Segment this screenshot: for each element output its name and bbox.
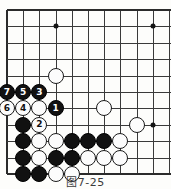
- grid-line-horizontal: [7, 26, 171, 27]
- stone-white[interactable]: [96, 150, 112, 166]
- stone-move-number: 3: [36, 87, 42, 96]
- stone-black[interactable]: [15, 150, 31, 166]
- figure-caption: 图7-25: [0, 172, 171, 189]
- stone-black[interactable]: [48, 150, 64, 166]
- stone-move-number: 4: [20, 103, 26, 112]
- numbered-stone-white-2[interactable]: 2: [31, 117, 47, 133]
- grid-line-horizontal: [7, 59, 171, 60]
- stone-move-number: 5: [20, 87, 26, 96]
- stone-white[interactable]: [48, 133, 64, 149]
- stone-move-number: 1: [52, 103, 58, 112]
- numbered-stone-white-4[interactable]: 4: [15, 100, 31, 116]
- stone-move-number: 2: [36, 120, 42, 129]
- stone-white[interactable]: [112, 133, 128, 149]
- star-point: [150, 122, 155, 127]
- grid-line-horizontal: [7, 9, 171, 11]
- numbered-stone-black-5[interactable]: 5: [15, 84, 31, 100]
- go-board[interactable]: 7536412: [0, 0, 171, 172]
- stone-black[interactable]: [15, 133, 31, 149]
- stone-move-number: 6: [4, 103, 10, 112]
- stone-white[interactable]: [31, 100, 47, 116]
- grid-line-horizontal: [7, 43, 171, 44]
- stone-white[interactable]: [96, 100, 112, 116]
- numbered-stone-white-6[interactable]: 6: [0, 100, 15, 116]
- numbered-stone-black-7[interactable]: 7: [0, 84, 15, 100]
- stone-white[interactable]: [48, 68, 64, 84]
- stone-white[interactable]: [31, 150, 47, 166]
- stone-black[interactable]: [15, 117, 31, 133]
- stone-white[interactable]: [80, 150, 96, 166]
- stone-white[interactable]: [31, 133, 47, 149]
- stone-white[interactable]: [129, 117, 145, 133]
- grid-line-horizontal: [7, 76, 171, 77]
- numbered-stone-black-3[interactable]: 3: [31, 84, 47, 100]
- go-diagram-figure: 7536412 图7-25: [0, 0, 171, 189]
- stone-black[interactable]: [80, 133, 96, 149]
- stone-black[interactable]: [96, 133, 112, 149]
- stone-black[interactable]: [64, 150, 80, 166]
- stone-black[interactable]: [64, 133, 80, 149]
- stone-white[interactable]: [112, 150, 128, 166]
- star-point: [53, 24, 58, 29]
- star-point: [150, 24, 155, 29]
- stone-move-number: 7: [4, 87, 10, 96]
- numbered-stone-black-1[interactable]: 1: [48, 100, 64, 116]
